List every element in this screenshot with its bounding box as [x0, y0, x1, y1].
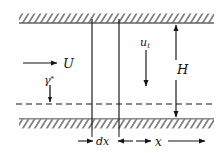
label-axial-coordinate: x: [155, 136, 162, 148]
flow-schematic-figure: U γ* ut H dx x: [0, 0, 223, 153]
diagram-canvas: [0, 0, 223, 153]
top-wall: [19, 14, 214, 24]
label-gap-height: H: [177, 63, 188, 76]
shear-rate-superscript: *: [51, 75, 54, 83]
bottom-wall-hatching: [19, 120, 214, 129]
bottom-wall: [19, 119, 214, 129]
label-shear-rate: γ*: [44, 75, 54, 86]
wall-velocity-subscript: t: [147, 42, 150, 50]
top-wall-hatching: [19, 14, 214, 23]
label-wall-velocity: ut: [140, 37, 150, 48]
shear-rate-symbol: γ: [44, 74, 51, 87]
label-inflow-velocity: U: [63, 57, 74, 70]
label-element-width: dx: [96, 136, 109, 147]
